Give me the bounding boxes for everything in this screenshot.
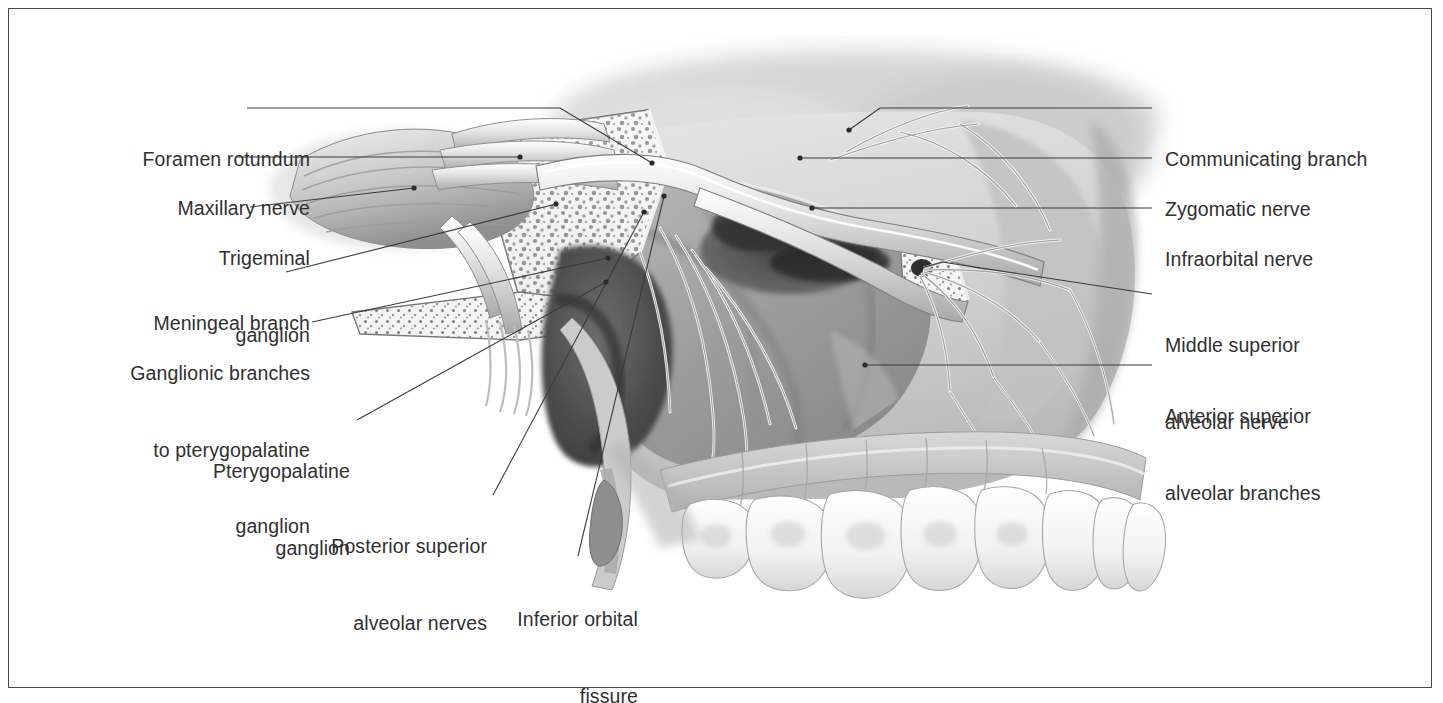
- figure-plate: Foramen rotundum Maxillary nerve Trigemi…: [0, 0, 1443, 703]
- label-line: Inferior orbital: [10, 607, 638, 633]
- label-line: Infraorbital nerve: [1165, 247, 1443, 273]
- label-line: Pterygopalatine: [10, 459, 350, 485]
- label-line: fissure: [10, 684, 638, 703]
- label-line: Anterior superior: [1165, 404, 1443, 430]
- label-anterior-superior-alveolar-branches: Anterior superior alveolar branches: [1165, 353, 1443, 557]
- label-inferior-orbital-fissure: Inferior orbital fissure: [10, 556, 638, 703]
- label-line: alveolar branches: [1165, 481, 1443, 507]
- label-line: Ganglionic branches: [10, 361, 310, 387]
- maxillary-teeth: [682, 487, 1166, 599]
